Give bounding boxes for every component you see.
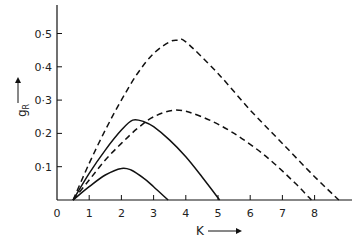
y-axis-label-text: gR (15, 103, 31, 117)
y-axis-label-sub: R (22, 103, 31, 109)
x-tick-label: 4 (182, 207, 189, 220)
y-tick-label: 0·4 (35, 61, 53, 74)
y-tick-label: 0·5 (35, 28, 53, 41)
y-axis-label: gR (15, 103, 31, 117)
x-tick-label: 6 (247, 207, 254, 220)
y-tick-label: 0·1 (35, 161, 53, 174)
y-tick-label: 0·3 (35, 94, 53, 107)
x-axis-label: K (196, 224, 242, 238)
y-tick-label: 0·2 (35, 127, 53, 140)
x-axis-label-text: K (196, 224, 205, 238)
x-tick-label: 2 (118, 207, 125, 220)
x-tick-label: 7 (279, 207, 286, 220)
y-ticks: 0·10·20·30·40·5 (35, 28, 63, 174)
y-axis-arrowhead-icon (15, 77, 21, 83)
chart: 012345678 0·10·20·30·40·5 K gR (0, 0, 357, 241)
y-axis-label-main: g (15, 109, 29, 117)
x-tick-label: 8 (311, 207, 318, 220)
x-tick-label: 5 (215, 207, 222, 220)
x-axis-arrowhead-icon (236, 228, 242, 234)
x-tick-label: 3 (150, 207, 157, 220)
x-tick-label: 1 (86, 207, 93, 220)
x-tick-label: 0 (54, 207, 61, 220)
series-dashed-upper (73, 39, 339, 200)
x-ticks: 012345678 (54, 195, 319, 220)
series-group (73, 39, 339, 200)
series-solid-upper (73, 120, 220, 200)
